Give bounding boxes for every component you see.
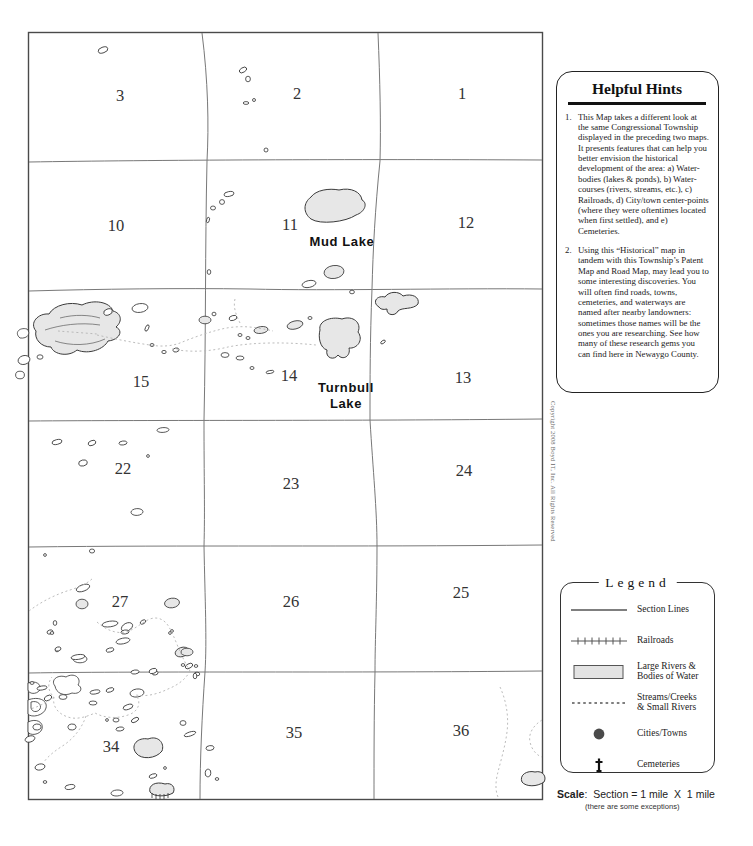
hint-item-2: 2. Using this “Historical” map in tandem… [565,245,709,359]
pond [220,200,225,205]
railroad-symbol [561,633,637,649]
pond [181,648,193,656]
pond [236,356,244,360]
pond [130,688,145,698]
pond-outline-cluster [17,329,81,735]
water-body-symbol [561,663,637,681]
pond [157,427,169,433]
pond [238,334,242,337]
legend-panel: Legend Section Lines Railroads Large Riv… [560,582,715,773]
pond [264,148,268,152]
pond [75,583,90,594]
pond [106,647,115,653]
pond [254,326,269,335]
pond [140,619,147,625]
section-number-13: 13 [455,368,472,387]
stream-creek-line [172,343,316,351]
pond [253,99,256,102]
pond [193,673,197,679]
section-number-26: 26 [283,592,300,611]
pond [184,662,193,670]
section-line-symbol [561,602,637,618]
pond [50,632,54,635]
pond [162,350,166,353]
pond [111,790,123,797]
legend-row-section-lines: Section Lines [561,594,714,625]
section-number-35: 35 [286,723,303,742]
scale-label: Scale [557,788,584,800]
pond [380,339,386,344]
section-number-22: 22 [115,459,132,478]
section-number-25: 25 [453,583,470,602]
pond-36-shape [521,772,545,786]
section-number-2: 2 [293,84,301,103]
map-border [29,33,543,800]
pond [181,664,185,667]
pond [206,745,215,751]
hint-text: Using this “Historical” map in tandem wi… [578,245,709,359]
pond [43,781,47,784]
township-historical-map-page: 321101112151413222324272625343536 Mud La… [0,0,753,846]
lakes-group [34,189,545,799]
section-number-3: 3 [116,86,124,105]
legend-row-large-water: Large Rivers & Bodies of Water [561,656,714,687]
hint-item-1: 1. This Map takes a different look at th… [565,112,709,237]
pond [286,319,303,331]
hint-number: 2. [565,245,575,359]
scale-exceptions-note: (there are some exceptions) [585,802,680,811]
copyright-text: Copyright 2008 Boyd IT, Inc. All Rights … [545,401,557,581]
pond [205,769,212,777]
pond [323,264,345,280]
pond [53,621,57,626]
legend-title: Legend [598,575,676,591]
section-number-14: 14 [281,366,298,385]
section-number-1: 1 [458,84,466,103]
pond [44,554,47,557]
township-map: 321101112151413222324272625343536 Mud La… [0,0,560,846]
pond [37,355,43,359]
pond [102,620,119,628]
section-number-24: 24 [456,461,473,480]
pond [221,353,229,358]
hint-text: This Map takes a different look at the s… [578,112,709,237]
pond [33,723,42,730]
pond [224,191,235,197]
pond [59,695,67,700]
pond [97,46,108,55]
cemetery-symbol [561,756,637,774]
pond [76,599,88,609]
pond [246,76,251,82]
pond [250,367,254,370]
legend-row-streams: Streams/Creeks & Small Rivers [561,687,714,718]
pond [215,778,219,781]
pond [308,317,312,320]
pond [78,459,88,467]
section13-lake-shape [375,292,418,314]
pond-cluster-outline [53,675,80,694]
pond [123,703,134,711]
pond [169,632,172,635]
lake-label: Turnbull [318,380,374,395]
section-number-27: 27 [112,592,129,611]
section-number-11: 11 [282,215,298,234]
pond [89,549,94,553]
pond [68,723,77,730]
section-number-10: 10 [108,216,125,235]
pond-35-bottom-shape [150,783,174,796]
legend-row-railroads: Railroads [561,625,714,656]
pond [116,637,131,645]
pond-cluster-outline [17,329,28,339]
pond [116,726,124,731]
pond [131,669,139,674]
stream-symbol [561,695,637,711]
pond [55,646,62,652]
pond [164,767,167,770]
city-town-symbol [561,726,637,742]
pond [180,721,186,726]
pond [211,206,216,210]
pond [24,735,35,744]
pond [144,324,150,332]
section-number-12: 12 [458,213,475,232]
pond [266,370,274,374]
stream-creek-line [496,687,508,799]
